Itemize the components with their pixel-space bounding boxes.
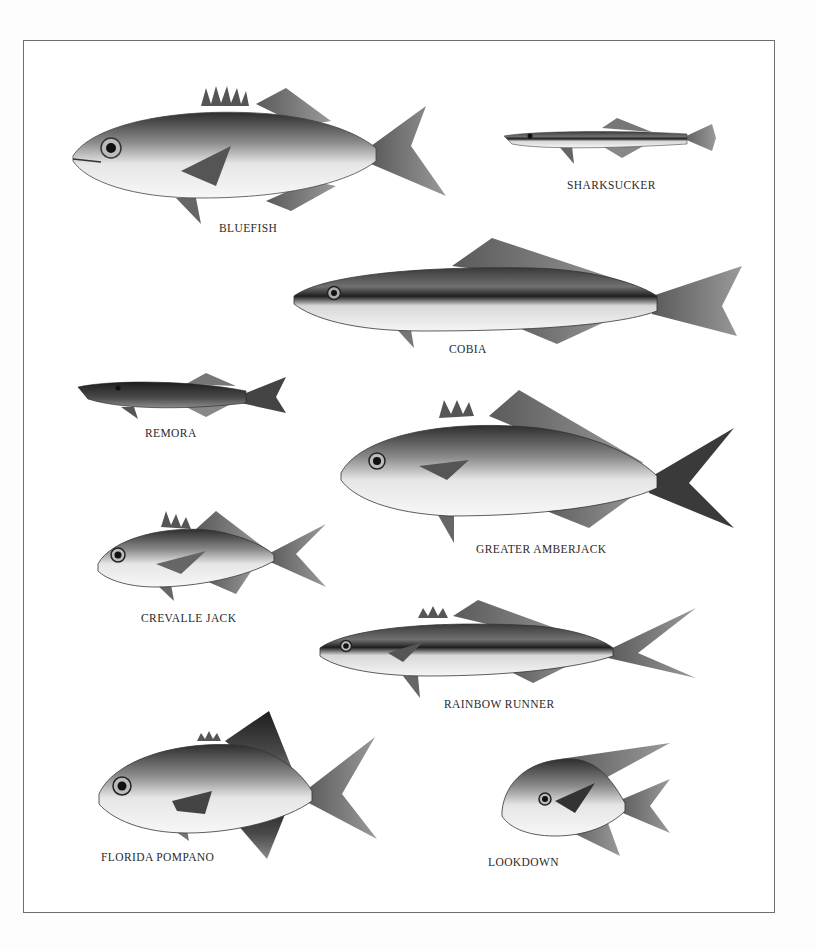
florida-pompano-label: FLORIDA POMPANO [101, 851, 214, 863]
crevalle-jack-illustration [96, 509, 331, 604]
sharksucker-illustration [502, 116, 720, 166]
remora-label: REMORA [145, 427, 197, 439]
bluefish-label: BLUEFISH [219, 222, 277, 234]
rainbow-runner-illustration [318, 598, 698, 698]
crevalle-jack-label: CREVALLE JACK [141, 612, 236, 624]
rainbow-runner-label: RAINBOW RUNNER [444, 698, 555, 710]
remora-illustration [76, 369, 291, 424]
cobia-label: COBIA [449, 343, 487, 355]
sharksucker-label: SHARKSUCKER [567, 179, 656, 191]
greater-amberjack-illustration [339, 388, 739, 543]
bluefish-illustration [71, 86, 451, 231]
lookdown-illustration [500, 741, 675, 861]
greater-amberjack-label: GREATER AMBERJACK [476, 543, 606, 555]
illustration-plate: BLUEFISH SHARKSUCKER COBIA [23, 40, 775, 913]
lookdown-label: LOOKDOWN [488, 856, 559, 868]
florida-pompano-illustration [97, 709, 382, 864]
cobia-illustration [292, 236, 747, 351]
